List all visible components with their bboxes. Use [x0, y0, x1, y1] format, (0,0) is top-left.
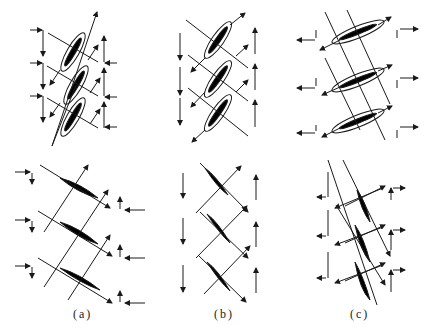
- caption-c: (c): [350, 307, 369, 322]
- panel-a-top: [30, 12, 117, 146]
- panel-b-bottom: [183, 163, 256, 302]
- panel-b-top: [180, 13, 255, 142]
- panel-c-bottom: [317, 160, 405, 305]
- panel-c-top: [297, 10, 418, 140]
- caption-a: (a): [73, 307, 92, 322]
- panel-a-bottom: [15, 165, 145, 303]
- diagram-canvas: [0, 0, 427, 331]
- caption-b: (b): [214, 307, 234, 322]
